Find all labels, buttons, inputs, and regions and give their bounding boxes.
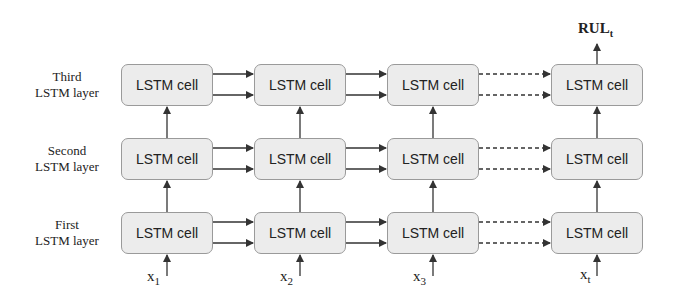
cell-label: LSTM cell bbox=[269, 225, 331, 241]
lstm-cell-layer1-tt: LSTM cell bbox=[551, 212, 643, 254]
cell-label: LSTM cell bbox=[136, 77, 198, 93]
cell-label: LSTM cell bbox=[136, 225, 198, 241]
cell-label: LSTM cell bbox=[136, 151, 198, 167]
output-sub: t bbox=[610, 28, 613, 39]
lstm-cell-layer1-t2: LSTM cell bbox=[254, 212, 346, 254]
cell-label: LSTM cell bbox=[566, 225, 628, 241]
cell-label: LSTM cell bbox=[566, 151, 628, 167]
input-base: x bbox=[413, 268, 421, 284]
lstm-cell-layer3-t3: LSTM cell bbox=[387, 64, 479, 106]
lstm-cell-layer2-t1: LSTM cell bbox=[121, 138, 213, 180]
output-rul: RULt bbox=[578, 20, 613, 39]
input-base: x bbox=[147, 268, 155, 284]
lstm-cell-layer1-t3: LSTM cell bbox=[387, 212, 479, 254]
cell-label: LSTM cell bbox=[566, 77, 628, 93]
input-sub: 1 bbox=[155, 275, 161, 287]
input-x1: x1 bbox=[147, 268, 160, 287]
input-x3: x3 bbox=[413, 268, 426, 287]
cell-label: LSTM cell bbox=[402, 151, 464, 167]
lstm-cell-layer2-t2: LSTM cell bbox=[254, 138, 346, 180]
input-sub: 2 bbox=[288, 275, 294, 287]
input-base: x bbox=[280, 268, 288, 284]
lstm-cell-layer3-tt: LSTM cell bbox=[551, 64, 643, 106]
cell-label: LSTM cell bbox=[269, 151, 331, 167]
lstm-cell-layer2-tt: LSTM cell bbox=[551, 138, 643, 180]
input-sub: t bbox=[588, 273, 591, 285]
lstm-cell-layer3-t1: LSTM cell bbox=[121, 64, 213, 106]
cell-label: LSTM cell bbox=[402, 225, 464, 241]
input-xt: xt bbox=[580, 266, 591, 285]
lstm-cell-layer2-t3: LSTM cell bbox=[387, 138, 479, 180]
lstm-cell-layer3-t2: LSTM cell bbox=[254, 64, 346, 106]
cell-label: LSTM cell bbox=[269, 77, 331, 93]
lstm-cell-layer1-t1: LSTM cell bbox=[121, 212, 213, 254]
input-base: x bbox=[580, 266, 588, 282]
cell-label: LSTM cell bbox=[402, 77, 464, 93]
input-sub: 3 bbox=[421, 275, 427, 287]
input-x2: x2 bbox=[280, 268, 293, 287]
output-base: RUL bbox=[578, 20, 610, 36]
